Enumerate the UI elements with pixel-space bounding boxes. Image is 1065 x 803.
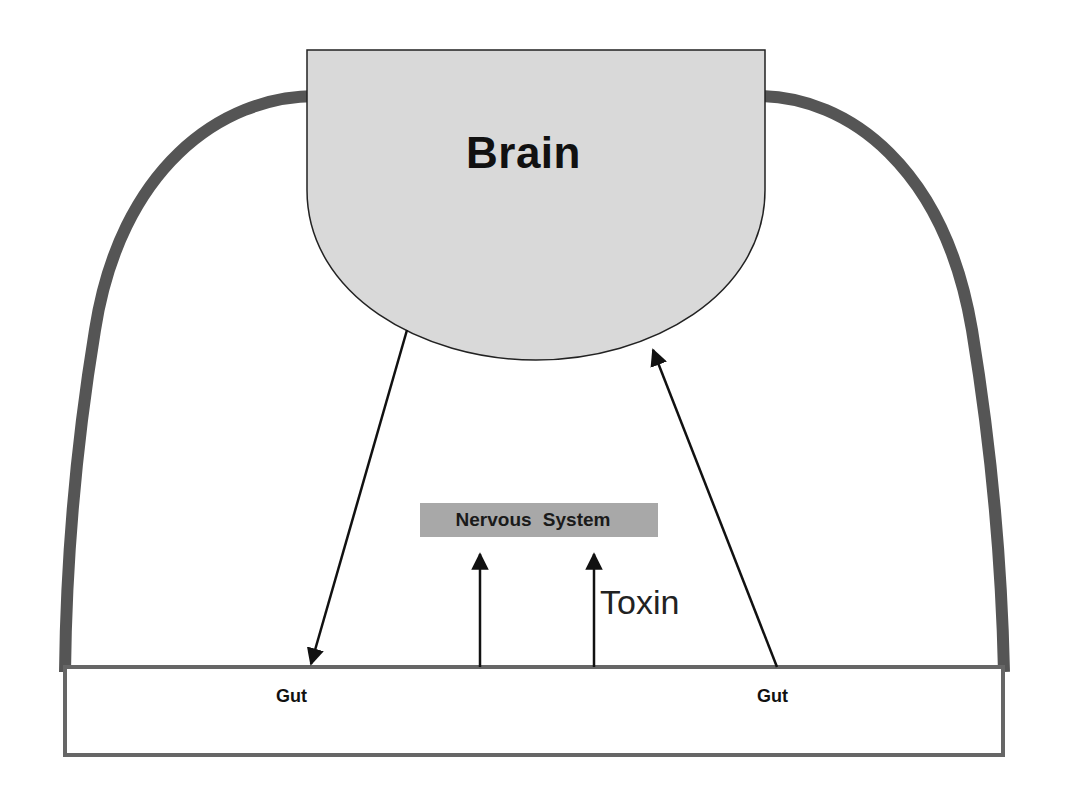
- diagram-canvas: Brain Nervous System Toxin Gut Gut: [0, 0, 1065, 803]
- brain-label: Brain: [0, 128, 1065, 178]
- brain-label-text: Brain: [466, 128, 581, 178]
- toxin-label: Toxin: [600, 583, 679, 622]
- gut-right-label: Gut: [757, 686, 788, 707]
- nervous-system-label: Nervous System: [456, 509, 611, 531]
- nervous-system-box: Nervous System: [420, 503, 658, 537]
- gut-box: [65, 667, 1003, 755]
- gut-left-label: Gut: [276, 686, 307, 707]
- brain-to-gut-arrow: [311, 330, 407, 664]
- brain-shape: [307, 50, 765, 360]
- left-nerve-arc: [65, 96, 316, 672]
- right-nerve-arc: [757, 96, 1004, 672]
